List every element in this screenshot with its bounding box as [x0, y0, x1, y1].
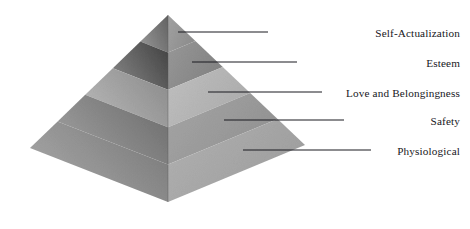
pyramid-body	[30, 15, 305, 202]
diagram-canvas: Self-Actualization Esteem Love and Belon…	[0, 0, 470, 229]
maslow-pyramid-diagram	[0, 0, 470, 229]
